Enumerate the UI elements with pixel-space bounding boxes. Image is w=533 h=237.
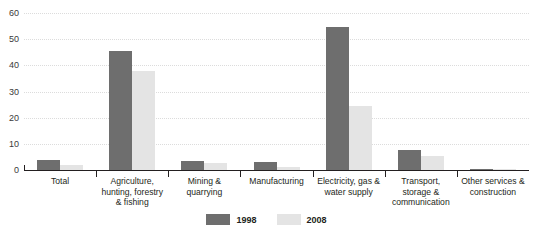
bar-2008: [421, 156, 444, 170]
legend-swatch-icon: [206, 214, 230, 225]
chart-legend: 19982008: [0, 214, 533, 225]
x-axis-category-label: Other services &construction: [457, 176, 529, 197]
x-axis-category-label: Transport,storage &communication: [385, 176, 457, 208]
bar-group: [254, 13, 300, 170]
category-label-line: hunting, forestry: [96, 187, 168, 198]
bar-2008: [349, 106, 372, 170]
y-axis-cap: [24, 165, 25, 171]
category-label-line: Transport,: [385, 176, 457, 187]
x-axis-category-label: Agriculture,hunting, forestry& fishing: [96, 176, 168, 208]
y-axis-tick-label: 0: [0, 165, 19, 175]
category-label-line: communication: [385, 197, 457, 208]
category-label-line: Total: [24, 176, 96, 187]
x-axis-category-label: Mining &quarrying: [168, 176, 240, 197]
bar-group: [326, 13, 372, 170]
y-axis-tick-label: 50: [0, 34, 19, 44]
category-label-line: Manufacturing: [240, 176, 312, 187]
bar-2008: [132, 71, 155, 170]
x-axis-category-label: Manufacturing: [240, 176, 312, 187]
category-label-line: water supply: [313, 187, 385, 198]
legend-label: 2008: [307, 215, 327, 225]
plot-area: [24, 13, 529, 170]
category-label-line: Other services &: [457, 176, 529, 187]
legend-item-1998[interactable]: 1998: [206, 214, 256, 225]
category-label-line: Electricity, gas &: [313, 176, 385, 187]
y-axis-tick-label: 20: [0, 113, 19, 123]
category-label-line: quarrying: [168, 187, 240, 198]
y-axis-tick-label: 30: [0, 87, 19, 97]
bar-1998: [326, 27, 349, 170]
bar-chart: 0102030405060 TotalAgriculture,hunting, …: [0, 0, 533, 237]
bar-group: [398, 13, 444, 170]
bar-1998: [109, 51, 132, 170]
bar-group: [470, 13, 516, 170]
bar-group: [37, 13, 83, 170]
legend-item-2008[interactable]: 2008: [277, 214, 327, 225]
legend-swatch-icon: [277, 214, 301, 225]
bar-group: [181, 13, 227, 170]
y-axis-tick-label: 10: [0, 139, 19, 149]
y-axis-tick-label: 60: [0, 8, 19, 18]
legend-label: 1998: [236, 215, 256, 225]
bar-group: [109, 13, 155, 170]
category-label-line: Agriculture,: [96, 176, 168, 187]
x-axis-category-label: Total: [24, 176, 96, 187]
bar-1998: [398, 150, 421, 170]
category-label-line: & fishing: [96, 197, 168, 208]
x-axis-line: [24, 170, 529, 171]
x-axis-category-label: Electricity, gas &water supply: [313, 176, 385, 197]
y-axis-tick-label: 40: [0, 60, 19, 70]
category-label-line: construction: [457, 187, 529, 198]
bar-1998: [181, 161, 204, 170]
category-label-line: Mining &: [168, 176, 240, 187]
bar-1998: [254, 162, 277, 170]
category-label-line: storage &: [385, 187, 457, 198]
clipped-title-sliver: [0, 0, 533, 5]
bar-1998: [37, 160, 60, 170]
